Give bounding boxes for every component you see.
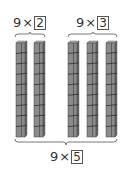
rods [16, 41, 117, 137]
brace-total [15, 139, 117, 145]
times-sign: × [59, 150, 70, 164]
ten-rod [34, 41, 45, 137]
ten-rod [68, 41, 79, 137]
brace-group-1 [15, 32, 45, 37]
ten-rod [16, 41, 27, 137]
ten-rod [87, 41, 98, 137]
multiplier-box: 5 [71, 150, 83, 164]
rods-diagram [0, 0, 131, 169]
ten-rod [106, 41, 117, 137]
total-label: 9×5 [50, 150, 83, 164]
brace-group-2 [68, 32, 117, 37]
factor: 9 [50, 150, 58, 164]
